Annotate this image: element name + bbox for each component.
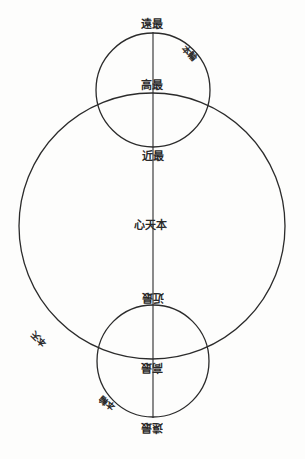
label-lower-highest: 高最 — [141, 362, 163, 373]
label-lower-nearest: 近最 — [142, 292, 164, 303]
diagram-page: 遠最 本輪 高最 近最 心天本 近最 高最 遠最 本輪 本天 — [0, 0, 305, 459]
label-upper-farthest: 遠最 — [141, 19, 163, 30]
label-lower-farthest: 遠最 — [141, 422, 163, 433]
label-upper-highest: 高最 — [141, 80, 163, 91]
label-upper-nearest: 近最 — [142, 151, 164, 162]
label-deferent-center: 心天本 — [134, 220, 167, 231]
